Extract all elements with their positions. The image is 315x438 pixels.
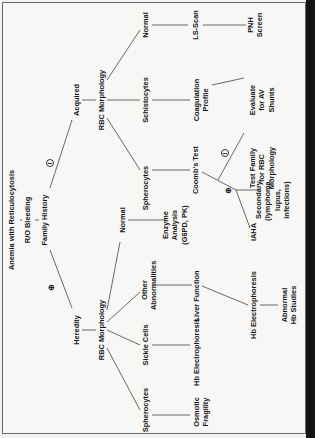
node-acquired: Acquired [72,84,81,116]
coombs-negative-icon [221,149,229,157]
node-heredity-normal: Normal [118,207,127,232]
node-schistocytes: Schistocytes [141,77,150,123]
node-hb-electrophoresis-2: Hb Electrophoresis [249,271,258,339]
node-secondary-causes: Secondary (lymphoma, lupus, infections) [254,176,291,224]
node-osmotic-fragility: Osmotic Fragility [192,395,211,429]
node-sickle-cells: Sickle Cells [141,324,150,365]
node-liver-function: Liver Function [192,271,201,322]
node-iaha: IAHA [249,223,258,241]
root-anemia-with-reticulocytosis: Anemia with Reticulocytosis [7,170,16,270]
node-other-abnormalities: Other Abnormalities [140,270,159,310]
positive-branch-icon: ⊕ [48,283,55,292]
node-coagulation-profile: Coagulation Profile [192,78,211,122]
node-enzyme-analysis: Enzyme Analysis (G6PD, PK) [161,197,189,253]
node-abnormal-hb-studies: Abnormal Hb Studies [280,283,299,327]
node-family-history: Family History [40,195,49,246]
coombs-positive-icon: ⊕ [225,186,232,195]
node-hb-electrophoresis: Hb Electrophoresis [192,318,201,386]
node-heredity-spherocytes: Spherocytes [141,388,150,432]
node-heredity: Heredity [72,315,81,345]
node-evaluate-av-shunts: Evaluate for AV Shunts [248,84,276,116]
node-ro-bleeding: R/O Bleeding [23,197,32,243]
node-acquired-normal: Normal [141,12,150,37]
node-pnh-screen: PNH Screen [246,12,265,38]
node-heredity-rbc-morphology: RBC Morphology [97,300,106,360]
node-ls-scan: LS-Scan [191,10,200,40]
node-coombs-test: Coomb's Test [191,146,200,194]
negative-branch-icon [46,159,54,167]
node-acquired-rbc-morphology: RBC Morphology [97,70,106,130]
node-acquired-spherocytes: Spherocytes [141,166,150,210]
